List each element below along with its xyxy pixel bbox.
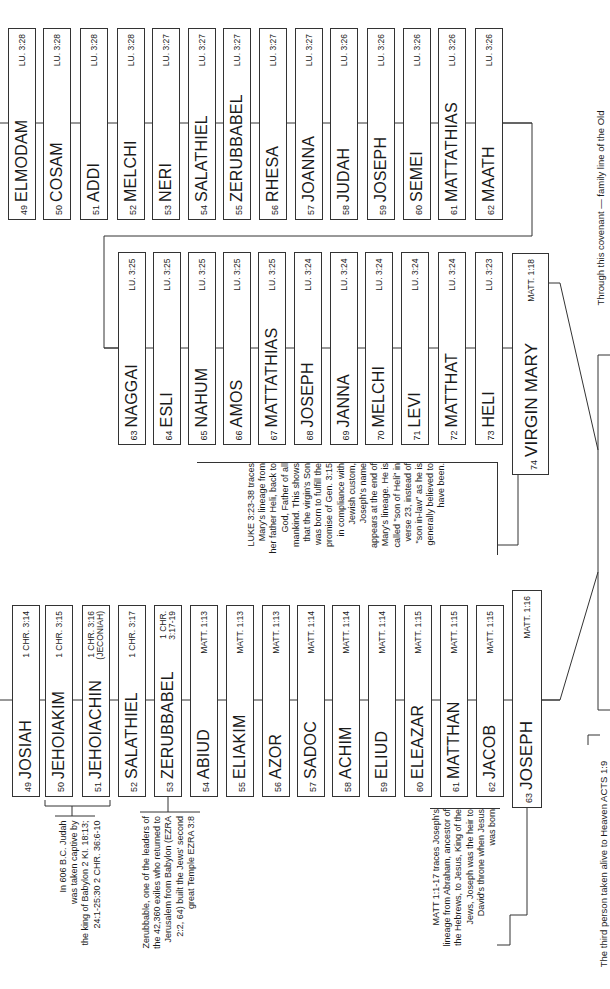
person-box[interactable]: 50COSAMLU. 3:28 [43,28,71,220]
person-name: MATTATHIAS [263,327,281,427]
scripture-ref: LU. 3:26 [448,34,457,66]
generation-number: 51 [93,782,103,792]
person-box[interactable]: 67MATTATHIASLU. 3:25 [258,252,286,445]
person-box[interactable]: 65NAHUMLU. 3:25 [188,252,216,445]
scripture-ref: MATT. 1:13 [272,611,281,654]
person-box[interactable]: 72MATTHATLU. 3:24 [438,252,466,445]
person-box[interactable]: 57SADOCMATT. 1:14 [297,605,325,797]
scripture-ref: MATT. 1:13 [236,611,245,654]
person-box[interactable]: 69JANNALU. 3:24 [330,252,358,445]
person-name: SALATHIEL [123,692,141,779]
person-name: NAHUM [193,367,211,427]
person-box[interactable]: 63NAGGAILU. 3:25 [118,252,146,445]
person-box[interactable]: 54SALATHIELLU. 3:27 [188,28,216,220]
scripture-ref: LU. 3:25 [163,258,172,290]
person-box[interactable]: 50JEHOIAKIM1 CHR. 3:15 [45,605,73,797]
person-box[interactable]: 70MELCHILU. 3:24 [365,252,393,445]
person-name: HELI [480,391,498,427]
generation-number: 69 [341,430,351,440]
person-box[interactable]: 53ZERUBBABEL1 CHR. 3:17-19 [154,605,182,797]
generation-number: 52 [129,782,139,792]
person-name: NAGGAI [123,364,141,427]
person-box[interactable]: 49JOSIAH1 CHR. 3:14 [12,605,40,797]
person-box[interactable]: 56AZORMATT. 1:13 [262,605,290,797]
person-name: JOSEPH [372,137,390,202]
person-name: ACHIM [337,726,355,779]
person-box[interactable]: 55ELIAKIMMATT. 1:13 [226,605,254,797]
person-name: JANNA [335,374,353,427]
person-box[interactable]: 62MAATHLU. 3:26 [475,28,503,220]
scripture-ref: MATT. 1:14 [378,611,387,654]
generation-number: 63 [524,793,534,803]
person-box[interactable]: 57JOANNALU. 3:27 [295,28,323,220]
generation-number: 64 [164,430,174,440]
generation-number: 61 [451,782,461,792]
person-box[interactable]: 58JUDAHLU. 3:26 [330,28,358,220]
scripture-ref: MATT. 1:15 [414,611,423,654]
person-name: JOSEPH [299,362,317,427]
person-box[interactable]: 66AMOSLU. 3:25 [223,252,251,445]
person-name: MELCHI [122,140,140,202]
person-name: SALATHIEL [193,115,211,202]
scripture-ref: LU. 3:24 [304,258,313,290]
person-name: SEMEI [408,151,426,202]
scripture-ref: LU. 3:26 [485,34,494,66]
person-box[interactable]: 60SEMEILU. 3:26 [403,28,431,220]
scripture-ref: MATT. 1:13 [200,611,209,654]
person-name: AMOS [228,379,246,427]
person-name: JUDAH [335,148,353,202]
person-name: ELIUD [373,731,391,779]
person-box[interactable]: 61MATTHANMATT. 1:15 [440,605,468,797]
joseph-box[interactable]: 63JOSEPH MATT. 1:16 [512,590,542,808]
person-box[interactable]: 62JACOBMATT. 1:15 [476,605,504,797]
scripture-ref: MATT. 1:15 [486,611,495,654]
scripture-ref: LU. 3:25 [128,258,137,290]
person-box[interactable]: 49ELMODAMLU. 3:28 [8,28,36,220]
person-box[interactable]: 64ESLILU. 3:25 [153,252,181,445]
scripture-ref: 1 CHR. 3:15 [55,611,64,658]
person-box[interactable]: 71LEVILU. 3:24 [401,252,429,445]
person-box[interactable]: 58ACHIMMATT. 1:14 [332,605,360,797]
generation-number: 53 [165,782,175,792]
scripture-ref: LU. 3:26 [340,34,349,66]
scripture-ref: LU. 3:26 [413,34,422,66]
scripture-ref: MATT. 1:18 [526,259,535,302]
person-box[interactable]: 55ZERUBBABELLU. 3:27 [223,28,251,220]
generation-number: 58 [343,782,353,792]
person-box[interactable]: 59ELIUDMATT. 1:14 [368,605,396,797]
scripture-ref: 1 CHR. 3:16 (JECONIAH) [87,611,105,660]
person-box[interactable]: 54ABIUDMATT. 1:13 [190,605,218,797]
scripture-ref: LU. 3:28 [18,34,27,66]
person-box[interactable]: 51JEHOIACHIN1 CHR. 3:16 (JECONIAH) [82,605,110,797]
person-box[interactable]: 53NERILU. 3:27 [152,28,180,220]
person-box[interactable]: 56RHESALU. 3:27 [259,28,287,220]
person-box[interactable]: 73HELILU. 3:23 [475,252,503,445]
generation-number: 70 [376,430,386,440]
person-box[interactable]: 68JOSEPHLU. 3:24 [294,252,322,445]
scripture-ref: 1 CHR. 3:14 [22,611,31,658]
virgin-mary-box[interactable]: 74VIRGIN MARY MATT. 1:18 [512,253,549,475]
scripture-ref: LU. 3:26 [377,34,386,66]
covenant-caption: Through this covenant — family line of t… [592,60,608,355]
person-box[interactable]: 52SALATHIEL1 CHR. 3:17 [118,605,146,797]
scripture-ref: LU. 3:25 [198,258,207,290]
scripture-ref: LU. 3:25 [268,258,277,290]
person-name: JOSIAH [17,720,35,779]
scripture-ref: LU. 3:24 [340,258,349,290]
person-box[interactable]: 52MELCHILU. 3:28 [117,28,145,220]
person-box[interactable]: 51ADDILU. 3:28 [80,28,108,220]
person-box[interactable]: 60ELEAZARMATT. 1:15 [404,605,432,797]
person-name: RHESA [264,146,282,202]
generation-number: 55 [237,782,247,792]
person-name: SADOC [302,721,320,779]
compare-annunciation-note [420,462,497,554]
generation-number: 52 [128,205,138,215]
person-box[interactable]: 59JOSEPHLU. 3:26 [367,28,395,220]
scripture-ref: 1 CHR. 3:17 [128,611,137,658]
person-box[interactable]: 61MATTATHIASLU. 3:26 [438,28,466,220]
scripture-ref: LU. 3:28 [53,34,62,66]
person-name: AZOR [267,734,285,779]
scripture-ref: MATT. 1:14 [342,611,351,654]
person-name: ELIAKIM [231,714,249,779]
scripture-ref: LU. 3:27 [162,34,171,66]
